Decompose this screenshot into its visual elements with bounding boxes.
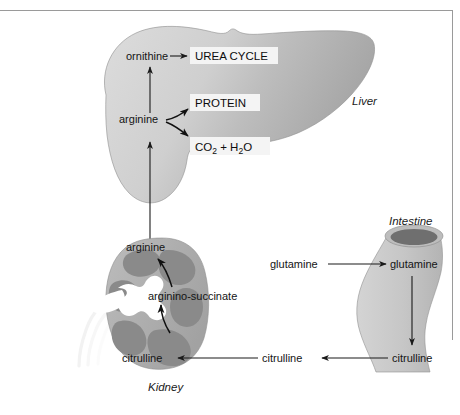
blood-glutamine-label: glutamine — [270, 258, 318, 270]
liver-arginine-label: arginine — [119, 113, 158, 125]
kidney-arginino-succinate-label: arginino-succinate — [148, 290, 237, 302]
intestine-lumen-inner — [391, 229, 438, 245]
urea-cycle-label: UREA CYCLE — [195, 50, 268, 62]
biochemical-pathway-figure: UREA CYCLE PROTEIN CO2 + H2O ornithine a… — [0, 0, 460, 415]
blood-citrulline-label: citrulline — [262, 352, 302, 364]
intestine-organ-label: Intestine — [389, 215, 432, 227]
protein-label: PROTEIN — [195, 97, 246, 109]
pathway-diagram-canvas: UREA CYCLE PROTEIN CO2 + H2O ornithine a… — [0, 0, 460, 415]
intestine-organ-group: glutamine citrulline — [357, 225, 443, 372]
kidney-citrulline-label: citrulline — [122, 352, 162, 364]
kidney-organ-group: arginine arginino-succinate citrulline — [79, 238, 237, 369]
liver-organ-label: Liver — [352, 95, 378, 107]
kidney-arginine-label: arginine — [126, 241, 165, 253]
intestine-glutamine-label: glutamine — [390, 258, 438, 270]
liver-ornithine-label: ornithine — [126, 50, 168, 62]
intestine-citrulline-label: citrulline — [392, 352, 432, 364]
kidney-organ-label: Kidney — [148, 381, 184, 393]
